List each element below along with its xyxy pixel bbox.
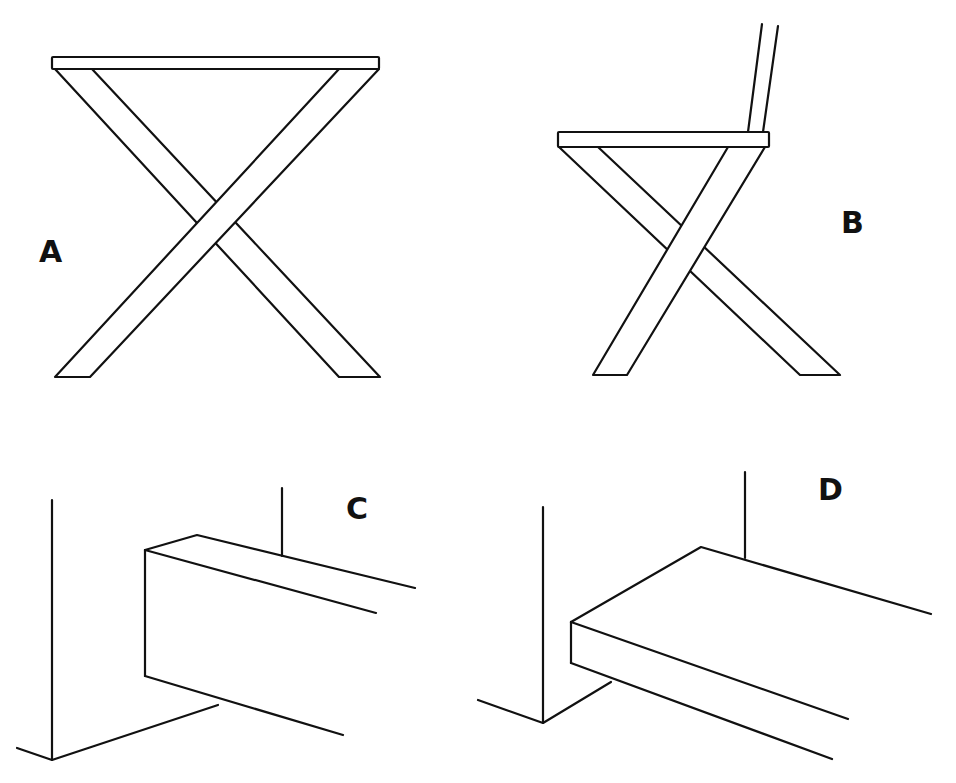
panel-d-board-bottom (571, 663, 832, 759)
panel-d-label: D (818, 472, 843, 507)
panel-c-board-bottom (145, 676, 343, 735)
panel-d-board-top (571, 547, 931, 622)
panel-a-label: A (39, 234, 63, 269)
panel-b-label: B (841, 205, 864, 240)
panel-c-board-front-top (145, 550, 376, 613)
diagram-canvas: A B C D (0, 0, 956, 783)
panel-d-floor-edge (478, 682, 611, 723)
panel-a-tabletop (52, 57, 379, 69)
panel-b-backrest (748, 24, 778, 132)
panel-c-floor-edge (17, 705, 218, 760)
panel-d-board-front-top (571, 622, 848, 719)
panel-a: A (39, 57, 380, 377)
panel-c-label: C (346, 491, 368, 526)
panel-c: C (17, 488, 415, 760)
panel-b: B (558, 24, 864, 375)
panel-b-seat (558, 132, 769, 147)
panel-d: D (478, 472, 931, 759)
panel-b-back-leg (559, 147, 840, 375)
